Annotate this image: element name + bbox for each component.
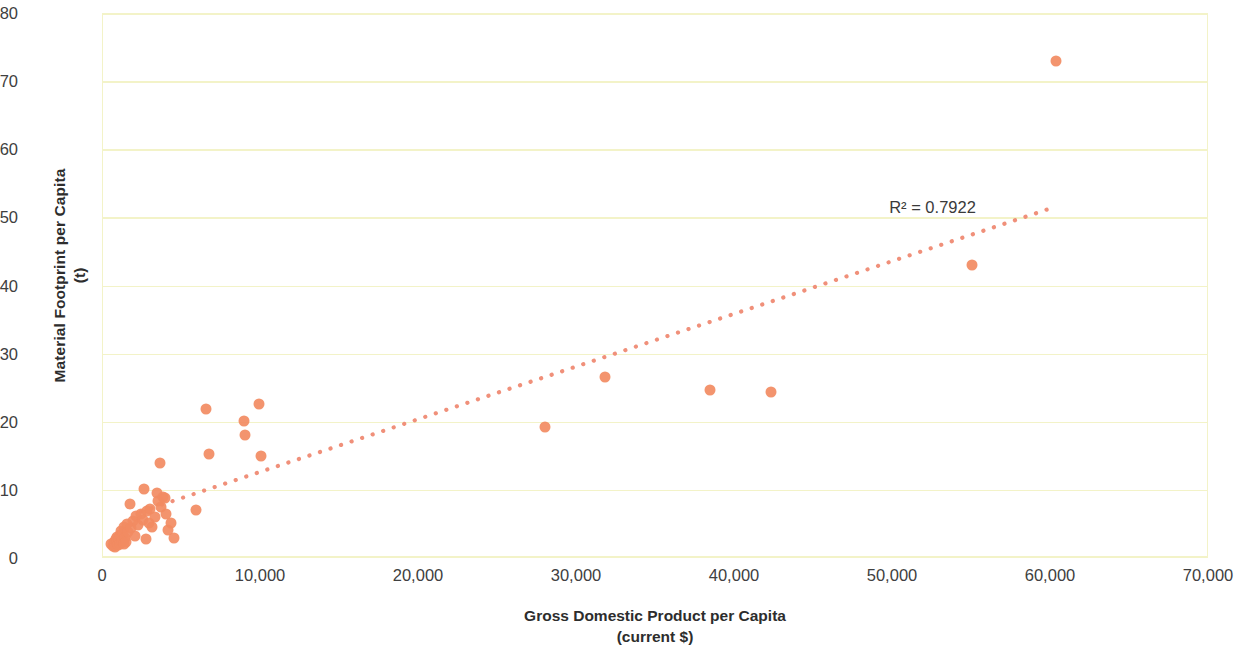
x-tick-label: 20,000 [358, 566, 478, 585]
x-tick-label: 70,000 [1148, 566, 1244, 585]
y-axis-title: Material Footprint per Capita (t) [50, 110, 91, 440]
x-tick-label: 30,000 [516, 566, 636, 585]
data-point [240, 429, 251, 440]
data-point [704, 384, 715, 395]
y-tick-label: 80 [0, 4, 18, 23]
data-point [766, 387, 777, 398]
gridline-y [103, 556, 1207, 558]
x-tick-label: 40,000 [674, 566, 794, 585]
x-tick-label: 0 [42, 566, 162, 585]
data-point [254, 399, 265, 410]
y-axis-unit: (t) [70, 110, 90, 440]
data-point [238, 416, 249, 427]
y-tick-label: 10 [0, 480, 18, 499]
x-axis-title: Gross Domestic Product per Capita (curre… [102, 606, 1208, 648]
y-tick-label: 0 [0, 549, 18, 568]
x-tick-label: 50,000 [832, 566, 952, 585]
data-point [165, 517, 176, 528]
gridline-y [103, 217, 1207, 219]
y-tick-label: 40 [0, 276, 18, 295]
gridline-y [103, 354, 1207, 356]
x-tick-label: 60,000 [990, 566, 1110, 585]
data-point [540, 421, 551, 432]
scatter-chart: Material Footprint per Capita (t) 010203… [0, 0, 1244, 655]
data-point [140, 533, 151, 544]
gridline-y [103, 81, 1207, 83]
data-point [124, 499, 135, 510]
data-point [200, 404, 211, 415]
gridline-y [103, 149, 1207, 151]
data-point [191, 504, 202, 515]
y-tick-label: 70 [0, 72, 18, 91]
x-axis-title-text: Gross Domestic Product per Capita [524, 607, 786, 624]
data-point [169, 532, 180, 543]
y-tick-label: 60 [0, 140, 18, 159]
y-tick-label: 50 [0, 208, 18, 227]
gridline-y [103, 286, 1207, 288]
r-squared-annotation: R² = 0.7922 [889, 198, 976, 217]
data-point [256, 450, 267, 461]
gridline-y [103, 422, 1207, 424]
gridline-y [103, 490, 1207, 492]
data-point [139, 483, 150, 494]
y-tick-label: 20 [0, 412, 18, 431]
data-point [203, 448, 214, 459]
data-point [154, 457, 165, 468]
plot-area: R² = 0.7922 [102, 13, 1208, 558]
data-point [1050, 55, 1061, 66]
gridline-y [103, 13, 1207, 15]
data-point [146, 521, 157, 532]
data-point [967, 260, 978, 271]
y-axis-title-text: Material Footprint per Capita [51, 169, 68, 383]
x-axis-unit: (current $) [102, 627, 1208, 648]
y-tick-label: 30 [0, 344, 18, 363]
x-tick-label: 10,000 [200, 566, 320, 585]
data-point [600, 372, 611, 383]
data-point [159, 493, 170, 504]
data-point [129, 531, 140, 542]
data-point [150, 512, 161, 523]
